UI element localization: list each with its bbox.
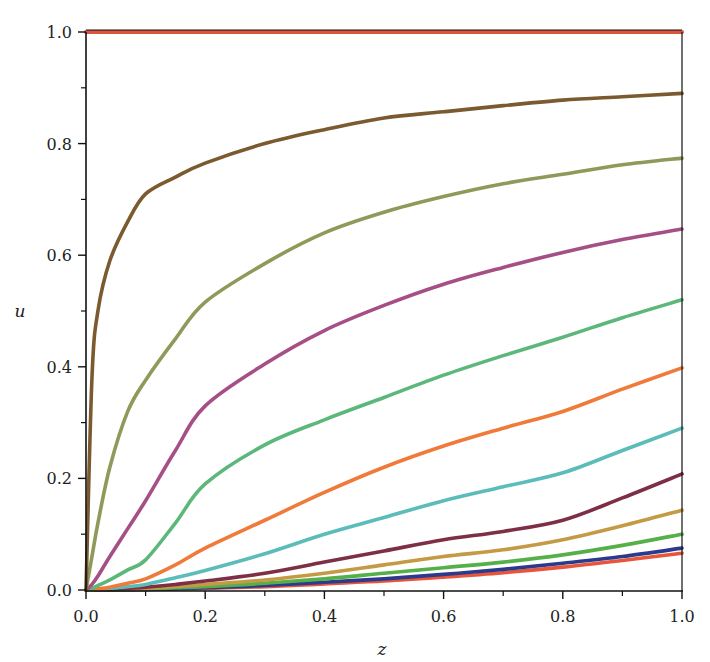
series-line-curve-5 <box>86 300 682 590</box>
y-ticks: 0.00.20.40.60.81.0 <box>47 23 86 600</box>
x-tick-label: 1.0 <box>669 607 694 626</box>
x-ticks: 0.00.20.40.60.81.0 <box>73 591 694 626</box>
y-tick-label: 0.4 <box>47 358 72 377</box>
x-tick-label: 0.6 <box>431 607 456 626</box>
y-axis-label: u <box>15 301 26 321</box>
y-tick-label: 0.0 <box>47 581 72 600</box>
series-line-curve-6 <box>86 368 682 590</box>
y-tick-label: 1.0 <box>47 23 72 42</box>
y-tick-label: 0.2 <box>47 469 72 488</box>
y-tick-label: 0.8 <box>47 135 72 154</box>
y-tick-label: 0.6 <box>47 246 72 265</box>
x-axis-label: z <box>377 639 388 659</box>
series-line-curve-4 <box>86 229 682 590</box>
series-layer <box>86 32 682 590</box>
x-tick-label: 0.8 <box>550 607 575 626</box>
line-chart: 0.00.20.40.60.81.0 0.00.20.40.60.81.0 z … <box>0 0 710 662</box>
x-tick-label: 0.2 <box>192 607 217 626</box>
x-tick-label: 0.4 <box>312 607 337 626</box>
x-tick-label: 0.0 <box>73 607 98 626</box>
